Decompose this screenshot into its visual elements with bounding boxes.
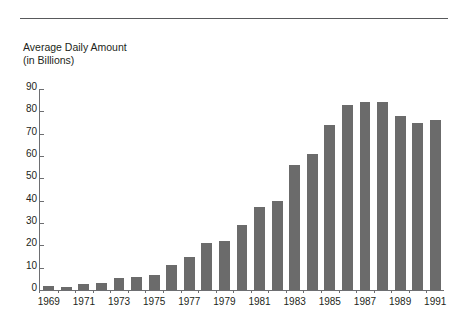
x-axis-tick-label: 1975 bbox=[143, 296, 165, 307]
bar bbox=[412, 123, 423, 291]
bar bbox=[166, 265, 177, 290]
bar bbox=[219, 241, 230, 290]
x-axis-tick-label: 1969 bbox=[38, 296, 60, 307]
bar bbox=[114, 278, 125, 290]
bar bbox=[307, 154, 318, 290]
bar bbox=[184, 257, 195, 291]
x-axis-tick-mark bbox=[286, 290, 287, 293]
x-axis-tick-mark bbox=[339, 290, 340, 293]
y-axis-tick-label: 90 bbox=[26, 82, 37, 92]
chart-title: Average Daily Amount (in Billions) bbox=[23, 41, 127, 67]
x-axis-tick-mark bbox=[128, 290, 129, 293]
y-axis-tick-label: 70 bbox=[26, 127, 37, 137]
y-axis-tick-label: 20 bbox=[26, 238, 37, 248]
x-axis-tick-label: 1971 bbox=[73, 296, 95, 307]
chart-title-line-1: Average Daily Amount bbox=[23, 41, 127, 54]
bar-chart-figure: Average Daily Amount (in Billions) 01020… bbox=[0, 0, 458, 329]
bar bbox=[96, 283, 107, 290]
header-divider bbox=[20, 18, 448, 19]
x-axis-tick-mark bbox=[251, 290, 252, 293]
x-axis-line bbox=[39, 290, 444, 291]
bar bbox=[430, 120, 441, 290]
x-axis-tick-label: 1991 bbox=[424, 296, 446, 307]
x-axis-tick-label: 1979 bbox=[213, 296, 235, 307]
x-axis-tick-mark bbox=[374, 290, 375, 293]
y-axis-tick-label: 0 bbox=[31, 283, 37, 293]
x-axis-tick-mark bbox=[145, 290, 146, 293]
x-axis-tick-mark bbox=[321, 290, 322, 293]
bar bbox=[377, 102, 388, 290]
y-axis-tick-label: 60 bbox=[26, 149, 37, 159]
x-axis-tick-mark bbox=[198, 290, 199, 293]
bar bbox=[272, 201, 283, 290]
y-axis-tick-label: 40 bbox=[26, 194, 37, 204]
bar bbox=[324, 125, 335, 290]
y-axis-tick-label: 30 bbox=[26, 216, 37, 226]
x-axis-tick-label: 1981 bbox=[248, 296, 270, 307]
x-axis-tick-mark bbox=[426, 290, 427, 293]
x-axis-tick-mark bbox=[409, 290, 410, 293]
bar bbox=[289, 165, 300, 290]
x-axis-tick-label: 1983 bbox=[284, 296, 306, 307]
y-axis-tick-label: 80 bbox=[26, 104, 37, 114]
y-axis-tick-label: 10 bbox=[26, 261, 37, 271]
x-axis-tick-mark bbox=[181, 290, 182, 293]
bar bbox=[131, 277, 142, 290]
bar bbox=[149, 275, 160, 290]
x-axis-tick-mark bbox=[303, 290, 304, 293]
bar bbox=[43, 286, 54, 290]
x-axis-tick-mark bbox=[163, 290, 164, 293]
chart-title-line-2: (in Billions) bbox=[23, 54, 127, 67]
bar bbox=[342, 105, 353, 290]
x-axis-tick-mark bbox=[216, 290, 217, 293]
x-axis-tick-label: 1989 bbox=[389, 296, 411, 307]
bar bbox=[237, 225, 248, 290]
bar bbox=[201, 243, 212, 290]
plot-area: 0102030405060708090 19691971197319751977… bbox=[39, 89, 444, 290]
y-axis-tick-label: 50 bbox=[26, 171, 37, 181]
bar bbox=[61, 287, 72, 290]
x-axis-tick-label: 1987 bbox=[354, 296, 376, 307]
x-axis-tick-mark bbox=[391, 290, 392, 293]
x-axis-tick-mark bbox=[58, 290, 59, 293]
x-axis-tick-mark bbox=[75, 290, 76, 293]
x-axis-tick-mark bbox=[233, 290, 234, 293]
bar-series bbox=[40, 89, 444, 290]
x-axis-tick-mark bbox=[268, 290, 269, 293]
x-axis-tick-label: 1977 bbox=[178, 296, 200, 307]
x-axis-tick-mark bbox=[39, 290, 40, 293]
bar bbox=[360, 102, 371, 290]
x-axis-tick-mark bbox=[110, 290, 111, 293]
x-axis-tick-label: 1985 bbox=[319, 296, 341, 307]
x-axis-tick-mark bbox=[356, 290, 357, 293]
bar bbox=[78, 284, 89, 290]
bar bbox=[254, 207, 265, 290]
x-axis-tick-mark bbox=[93, 290, 94, 293]
bar bbox=[395, 116, 406, 290]
x-axis-tick-label: 1973 bbox=[108, 296, 130, 307]
